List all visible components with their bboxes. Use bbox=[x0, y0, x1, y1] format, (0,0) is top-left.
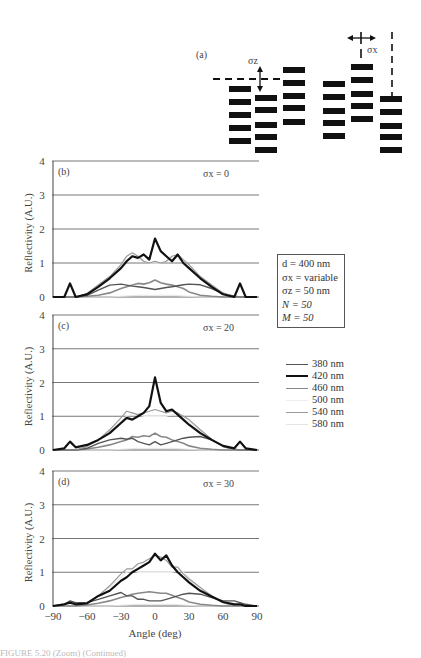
sigma-z-label: σz bbox=[248, 55, 258, 66]
y-tick-label: 2 bbox=[39, 533, 45, 545]
sigma-x-label: σx bbox=[367, 44, 377, 55]
grating-block bbox=[229, 112, 251, 118]
grating-block bbox=[323, 133, 345, 139]
x-tick-label: −60 bbox=[78, 610, 96, 622]
grating-blocks bbox=[229, 64, 402, 153]
y-axis-label: Reflectivity (A.U.) bbox=[23, 346, 35, 426]
chart-panel-b: 01234Reflectivity (A.U.)(b)σx = 0 bbox=[23, 155, 259, 303]
y-axis-label: Reflectivity (A.U.) bbox=[23, 502, 35, 582]
legend-swatch bbox=[286, 412, 308, 413]
y-tick-label: 3 bbox=[39, 189, 45, 201]
y-tick-label: 4 bbox=[39, 155, 45, 167]
x-axis-label: Angle (deg) bbox=[129, 627, 182, 640]
legend-swatch bbox=[286, 400, 308, 401]
series-line-420nm bbox=[53, 554, 257, 606]
grating-block bbox=[380, 96, 402, 102]
grating-block bbox=[323, 120, 345, 126]
chart-panel-d: 01234Reflectivity (A.U.)(d)σx = 30−90−60… bbox=[23, 465, 263, 640]
grating-block bbox=[380, 147, 402, 153]
series-line-540nm bbox=[53, 410, 257, 451]
x-tick-label: 90 bbox=[252, 610, 264, 622]
series-line-500nm bbox=[53, 413, 257, 450]
grating-block bbox=[380, 134, 402, 140]
legend-item: 380 nm bbox=[286, 358, 344, 370]
legend-label: 540 nm bbox=[312, 406, 344, 418]
grating-block bbox=[380, 109, 402, 115]
param-n: N = 50 bbox=[282, 298, 340, 312]
legend-item: 580 nm bbox=[286, 418, 344, 430]
grating-block bbox=[229, 125, 251, 131]
y-tick-label: 1 bbox=[39, 566, 45, 578]
grating-block bbox=[283, 80, 305, 86]
panel-label: (d) bbox=[58, 476, 70, 488]
grating-block bbox=[283, 105, 305, 111]
series-line-420nm bbox=[53, 377, 257, 450]
sigma-x-annotation: σx = 20 bbox=[203, 322, 234, 333]
y-tick-label: 4 bbox=[39, 309, 45, 321]
sigma-x-annotation: σx = 30 bbox=[203, 478, 234, 489]
legend: 380 nm 420 nm 460 nm 500 nm 540 nm 580 n… bbox=[286, 358, 344, 430]
series-line-420nm bbox=[53, 239, 257, 298]
grating-block bbox=[229, 99, 251, 105]
grating-block bbox=[283, 93, 305, 99]
param-sigma-z: σz = 50 nm bbox=[282, 284, 340, 298]
legend-swatch bbox=[286, 388, 308, 389]
grating-block bbox=[323, 81, 345, 87]
grating-block bbox=[351, 64, 373, 70]
panel-label: (c) bbox=[58, 320, 69, 332]
grating-block bbox=[351, 77, 373, 83]
legend-label: 420 nm bbox=[312, 370, 344, 382]
y-tick-label: 0 bbox=[39, 291, 45, 303]
legend-label: 460 nm bbox=[312, 382, 344, 394]
y-tick-label: 1 bbox=[39, 410, 45, 422]
grating-block bbox=[255, 147, 277, 153]
series-line-500nm bbox=[53, 256, 257, 297]
legend-label: 500 nm bbox=[312, 394, 344, 406]
y-axis-label: Reflectivity (A.U.) bbox=[23, 193, 35, 273]
y-tick-label: 2 bbox=[39, 377, 45, 389]
grating-block bbox=[283, 119, 305, 125]
x-tick-label: 30 bbox=[184, 610, 196, 622]
grating-block bbox=[323, 108, 345, 114]
grating-block bbox=[323, 94, 345, 100]
panel-label: (b) bbox=[58, 166, 70, 178]
legend-label: 580 nm bbox=[312, 418, 344, 430]
legend-swatch bbox=[286, 364, 308, 365]
param-d: d = 400 nm bbox=[282, 257, 340, 271]
grating-block bbox=[255, 122, 277, 128]
sigma-x-annotation: σx = 0 bbox=[203, 168, 229, 179]
y-tick-label: 1 bbox=[39, 257, 45, 269]
grating-block bbox=[283, 67, 305, 73]
grating-block bbox=[351, 91, 373, 97]
grating-block bbox=[229, 138, 251, 144]
param-sigma-x: σx = variable bbox=[282, 271, 340, 285]
y-tick-label: 0 bbox=[39, 444, 45, 456]
grating-block bbox=[229, 86, 251, 92]
grating-block bbox=[255, 134, 277, 140]
chart-panel-c: 01234Reflectivity (A.U.)(c)σx = 20 bbox=[23, 309, 259, 456]
grating-block bbox=[351, 116, 373, 122]
grating-block bbox=[380, 123, 402, 129]
legend-item: 500 nm bbox=[286, 394, 344, 406]
y-tick-label: 3 bbox=[39, 343, 45, 355]
figure-canvas: (a) σz σx 01234Reflectivity (A.U.)(b)σx … bbox=[0, 0, 421, 658]
grating-block bbox=[255, 95, 277, 101]
param-m: M = 50 bbox=[282, 311, 340, 325]
legend-item: 460 nm bbox=[286, 382, 344, 394]
series-line-540nm bbox=[53, 253, 257, 297]
legend-item: 540 nm bbox=[286, 406, 344, 418]
legend-item: 420 nm bbox=[286, 370, 344, 382]
y-tick-label: 3 bbox=[39, 499, 45, 511]
grating-block bbox=[351, 103, 373, 109]
legend-swatch bbox=[286, 375, 308, 377]
x-tick-label: −90 bbox=[44, 610, 62, 622]
y-tick-label: 4 bbox=[39, 465, 45, 477]
y-tick-label: 2 bbox=[39, 223, 45, 235]
legend-label: 380 nm bbox=[312, 358, 344, 370]
x-tick-label: −30 bbox=[112, 610, 130, 622]
panel-label-a: (a) bbox=[196, 49, 207, 61]
grating-block bbox=[255, 107, 277, 113]
series-line-540nm bbox=[53, 555, 257, 606]
x-tick-label: 60 bbox=[218, 610, 230, 622]
figure-caption-fragment: FIGURE 5.20 (Zoom) (Continued) bbox=[0, 648, 126, 658]
